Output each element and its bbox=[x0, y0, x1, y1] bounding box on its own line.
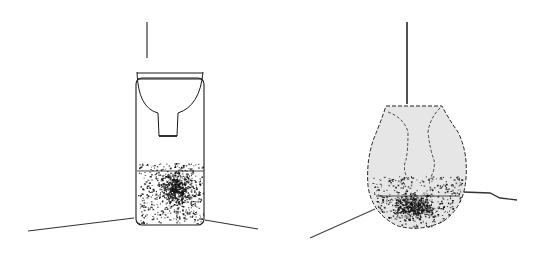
particle bbox=[423, 209, 425, 211]
particle bbox=[158, 172, 160, 173]
particle bbox=[413, 213, 415, 214]
particle bbox=[407, 208, 408, 210]
particle bbox=[185, 190, 187, 191]
particle bbox=[379, 179, 380, 180]
particle bbox=[404, 183, 405, 184]
particle bbox=[189, 175, 190, 177]
particle bbox=[179, 193, 180, 194]
particle bbox=[179, 187, 180, 189]
particle bbox=[422, 203, 424, 204]
particle bbox=[195, 201, 197, 202]
particle bbox=[144, 183, 145, 184]
particle bbox=[427, 190, 428, 191]
particle bbox=[177, 208, 178, 210]
particle bbox=[184, 220, 185, 222]
particle bbox=[459, 193, 461, 195]
particle bbox=[421, 198, 422, 199]
particle bbox=[180, 183, 181, 185]
particle bbox=[189, 198, 191, 200]
particle bbox=[169, 202, 171, 203]
particle bbox=[399, 176, 400, 177]
particle bbox=[186, 187, 187, 189]
particle bbox=[444, 212, 445, 213]
particle bbox=[421, 185, 422, 186]
particle bbox=[162, 186, 163, 187]
particle bbox=[145, 184, 146, 185]
particle bbox=[172, 197, 173, 198]
particle bbox=[167, 194, 169, 196]
particle bbox=[447, 191, 449, 193]
particle bbox=[144, 178, 145, 179]
particle bbox=[180, 188, 181, 190]
particle bbox=[409, 212, 411, 213]
particle bbox=[386, 196, 388, 198]
particle bbox=[440, 177, 442, 178]
particle bbox=[397, 213, 398, 215]
particle bbox=[395, 218, 397, 220]
particle bbox=[196, 213, 197, 215]
particle bbox=[408, 201, 410, 202]
particle bbox=[391, 199, 392, 201]
particle bbox=[177, 177, 178, 178]
particle bbox=[386, 200, 387, 202]
particle bbox=[170, 203, 171, 204]
particle bbox=[395, 210, 396, 211]
particle bbox=[198, 201, 199, 203]
particle bbox=[190, 197, 192, 199]
particle bbox=[404, 177, 406, 179]
particle bbox=[418, 210, 419, 212]
particle bbox=[428, 209, 429, 210]
particle bbox=[149, 187, 151, 189]
particle bbox=[400, 206, 402, 208]
particle bbox=[186, 175, 188, 177]
particle bbox=[399, 201, 400, 203]
particle bbox=[162, 191, 164, 193]
particle bbox=[381, 209, 383, 211]
particle bbox=[172, 174, 174, 175]
particle bbox=[380, 195, 382, 196]
particle bbox=[185, 185, 186, 186]
particle bbox=[376, 184, 377, 185]
particle bbox=[431, 189, 433, 190]
particle bbox=[154, 174, 156, 175]
particle bbox=[153, 209, 155, 210]
particle bbox=[390, 202, 392, 203]
particle bbox=[406, 191, 408, 193]
particle bbox=[195, 164, 196, 165]
particle bbox=[432, 190, 433, 191]
particle bbox=[424, 208, 426, 209]
particle bbox=[452, 184, 454, 185]
right-vessel-panel bbox=[310, 22, 517, 238]
particle bbox=[187, 181, 188, 182]
particle bbox=[402, 225, 403, 226]
particle bbox=[139, 223, 141, 225]
particle bbox=[156, 176, 157, 177]
particle bbox=[177, 179, 178, 181]
particle bbox=[158, 182, 160, 183]
particle bbox=[430, 211, 431, 212]
particle bbox=[398, 217, 400, 218]
particle bbox=[414, 195, 415, 196]
particle bbox=[162, 169, 164, 170]
particle bbox=[389, 178, 391, 179]
particle bbox=[174, 211, 176, 213]
particle bbox=[183, 186, 184, 187]
particle bbox=[398, 209, 400, 210]
particle bbox=[390, 199, 391, 201]
particle bbox=[169, 174, 170, 175]
particle bbox=[428, 205, 430, 207]
particle bbox=[200, 199, 202, 200]
particle bbox=[170, 220, 172, 221]
particle bbox=[405, 198, 406, 200]
particle bbox=[193, 206, 194, 207]
particle bbox=[445, 211, 446, 212]
particle bbox=[191, 207, 192, 208]
particle bbox=[158, 185, 160, 187]
particle bbox=[188, 168, 189, 169]
particle bbox=[432, 221, 433, 222]
particle bbox=[441, 201, 442, 203]
particle bbox=[390, 210, 391, 212]
particle bbox=[410, 193, 411, 194]
particle bbox=[392, 179, 394, 180]
particle bbox=[396, 219, 397, 220]
